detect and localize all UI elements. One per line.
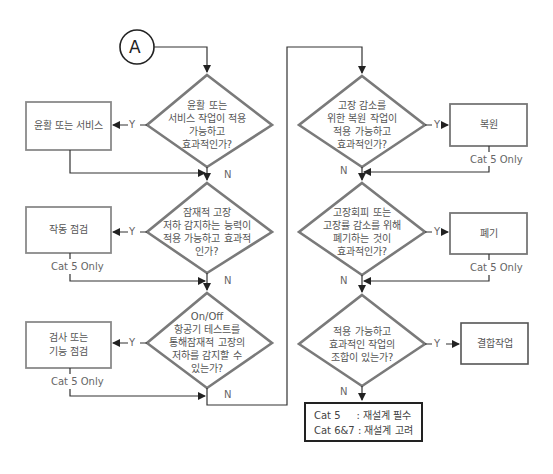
return-line-1 xyxy=(70,150,205,173)
yes-label-2: Y xyxy=(129,226,135,238)
cat5-note-discard: Cat 5 Only xyxy=(470,262,523,274)
start-connector-label: A xyxy=(129,37,141,57)
action-label-operational-check: 작동 점검 xyxy=(26,207,111,253)
yes-label-1: Y xyxy=(129,119,135,131)
yes-label-6: Y xyxy=(434,338,440,350)
yes-label-4: Y xyxy=(434,119,440,131)
return-line-5b xyxy=(364,275,489,281)
redesign-cat67-row: Cat 6&7 : 재설계 고려 xyxy=(314,423,421,438)
redesign-outcome-box: Cat 5 : 재설계 필수 Cat 6&7 : 재설계 고려 xyxy=(304,402,423,442)
no-label-3: N xyxy=(224,389,231,401)
decision-text-restoration: 고장 감소를 위한 복원 작업이 적용 가능하고 효과적인가? xyxy=(307,99,417,151)
yes-label-3: Y xyxy=(129,337,135,349)
yes-label-5: Y xyxy=(434,226,440,238)
action-label-restoration: 복원 xyxy=(450,104,527,146)
action-label-combination: 결합작업 xyxy=(461,323,528,364)
cat5-note-operational-check: Cat 5 Only xyxy=(51,261,104,273)
no-label-2: N xyxy=(224,275,231,287)
no-label-5: N xyxy=(340,275,347,287)
connector-a-to-d1 xyxy=(154,47,207,72)
return-line-3b xyxy=(70,389,205,396)
cat5-note-restoration: Cat 5 Only xyxy=(470,154,523,166)
return-line-2b xyxy=(70,274,205,281)
decision-text-discard: 고장회피 또는 고장률 감소를 위해 폐기하는 것이 효과적인가? xyxy=(303,206,421,258)
decision-text-lubrication: 윤활 또는 서비스 작업이 적용 가능하고 효과적인가? xyxy=(152,99,262,151)
cat5-note-inspection: Cat 5 Only xyxy=(51,376,104,388)
no-label-6: N xyxy=(340,386,347,398)
no-label-1: N xyxy=(224,169,231,181)
no-label-4: N xyxy=(340,165,347,177)
decision-text-onoff-test: On/Off 항공기 테스트를 통해잠재적 고장의 저하를 감지할 수 있는가? xyxy=(152,310,262,375)
action-label-lubrication: 윤활 또는 서비스 xyxy=(26,102,111,150)
decision-text-combination: 적용 가능하고 효과적인 작업의 조합이 있는가? xyxy=(307,325,417,364)
action-label-inspection: 검사 또는 기능 점검 xyxy=(26,322,111,368)
action-label-discard: 폐기 xyxy=(450,213,527,254)
decision-text-failure-detection: 잠재적 고장 저하 감지하는 능력이 적용 가능하고 효과적 인가? xyxy=(150,206,264,258)
redesign-cat5-row: Cat 5 : 재설계 필수 xyxy=(314,408,421,423)
figure-caption-cutoff xyxy=(160,466,400,472)
return-line-4b xyxy=(364,166,489,172)
